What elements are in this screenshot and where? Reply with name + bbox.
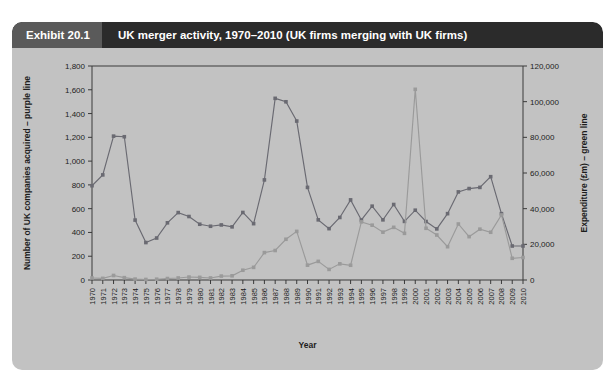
series-marker xyxy=(500,213,504,217)
series-marker xyxy=(155,277,159,281)
series-marker xyxy=(187,215,191,219)
series-marker xyxy=(392,203,396,207)
series-marker xyxy=(209,224,213,228)
x-axis-tick-label: 1999 xyxy=(400,288,409,305)
y-axis-tick-label: 600 xyxy=(72,205,86,214)
x-axis-tick-label: 2007 xyxy=(487,288,496,305)
x-axis-tick-label: 2002 xyxy=(433,288,442,305)
series-marker xyxy=(155,236,159,240)
series-marker xyxy=(370,204,374,208)
x-axis-tick-label: 2006 xyxy=(476,288,485,305)
series-marker xyxy=(241,268,245,272)
x-axis-tick-label: 2001 xyxy=(422,288,431,305)
y2-axis-tick-label: 100,000 xyxy=(530,98,559,107)
series-marker xyxy=(144,241,148,245)
y-axis-tick-label: 1,600 xyxy=(65,86,86,95)
series-marker xyxy=(241,211,245,215)
series-marker xyxy=(263,178,267,182)
series-marker xyxy=(435,233,439,237)
x-axis-tick-label: 1985 xyxy=(250,288,259,305)
series-marker xyxy=(489,230,493,234)
series-marker xyxy=(392,226,396,230)
exhibit-header: Exhibit 20.1 UK merger activity, 1970–20… xyxy=(12,22,603,48)
y-axis-tick-label: 400 xyxy=(72,228,86,237)
series-marker xyxy=(220,223,224,227)
x-axis-tick-label: 1974 xyxy=(131,288,140,305)
x-axis-tick-label: 1991 xyxy=(314,288,323,305)
series-marker xyxy=(295,119,299,123)
x-axis-tick-label: 2003 xyxy=(444,288,453,305)
series-marker xyxy=(263,251,267,255)
y2-axis-tick-label: 0 xyxy=(530,276,535,285)
y-axis-tick-label: 1,800 xyxy=(65,62,86,71)
x-axis-tick-label: 1986 xyxy=(260,288,269,305)
series-marker xyxy=(209,276,213,280)
series-marker xyxy=(510,244,514,248)
chart-axes xyxy=(88,66,527,284)
x-axis-tick-label: 1997 xyxy=(379,288,388,305)
x-axis-tick-label: 1977 xyxy=(163,288,172,305)
series-marker xyxy=(316,218,320,222)
series-marker xyxy=(123,135,127,139)
x-axis-tick-label: 1980 xyxy=(196,288,205,305)
x-axis-tick-label: 1995 xyxy=(357,288,366,305)
exhibit-number-badge: Exhibit 20.1 xyxy=(12,22,102,48)
series-marker xyxy=(273,97,277,101)
x-axis-tick-label: 2008 xyxy=(497,288,506,305)
x-axis-tick-label: 1994 xyxy=(347,288,356,305)
x-axis-title: Year xyxy=(299,340,318,350)
x-axis-tick-label: 2009 xyxy=(508,288,517,305)
y2-axis-title: Expenditure (£m) – green line xyxy=(579,113,589,232)
series-marker xyxy=(381,230,385,234)
x-axis-tick-label: 1988 xyxy=(282,288,291,305)
series-marker xyxy=(133,277,137,281)
series-marker xyxy=(295,230,299,234)
x-axis-tick-label: 1971 xyxy=(99,288,108,305)
x-axis-tick-label: 1975 xyxy=(142,288,151,305)
series-marker xyxy=(521,256,525,260)
x-axis-tick-label: 1989 xyxy=(293,288,302,305)
series-marker xyxy=(435,227,439,231)
x-axis-tick-label: 1978 xyxy=(174,288,183,305)
series-marker xyxy=(166,221,170,225)
x-axis-tick-label: 1979 xyxy=(185,288,194,305)
series-marker xyxy=(198,222,202,226)
series-marker xyxy=(112,134,116,138)
x-axis-tick-label: 2005 xyxy=(465,288,474,305)
series-marker xyxy=(101,173,105,177)
y-axis-tick-label: 1,200 xyxy=(65,133,86,142)
series-marker xyxy=(467,187,471,191)
series-marker xyxy=(478,186,482,190)
exhibit-card: Exhibit 20.1 UK merger activity, 1970–20… xyxy=(12,22,603,370)
series-marker xyxy=(90,276,94,280)
x-axis-tick-label: 1998 xyxy=(390,288,399,305)
series-marker xyxy=(306,186,310,190)
series-marker xyxy=(424,226,428,230)
series-marker xyxy=(273,249,277,253)
series-marker xyxy=(133,218,137,222)
series-marker xyxy=(360,220,364,224)
series-marker xyxy=(316,260,320,264)
merger-activity-line-chart: 02004006008001,0001,2001,4001,6001,80002… xyxy=(12,48,603,370)
series-marker xyxy=(144,278,148,282)
x-axis-tick-label: 2010 xyxy=(519,288,528,305)
series-marker xyxy=(370,223,374,227)
x-axis-tick-label: 2004 xyxy=(454,288,463,305)
series-marker xyxy=(467,235,471,239)
y2-axis-tick-label: 40,000 xyxy=(530,205,555,214)
x-axis-tick-label: 1973 xyxy=(120,288,129,305)
chart-series xyxy=(90,88,525,282)
series-marker xyxy=(457,222,461,226)
series-marker xyxy=(446,212,450,216)
x-axis-tick-label: 1992 xyxy=(325,288,334,305)
chart-labels: 02004006008001,0001,2001,4001,6001,80002… xyxy=(22,62,589,350)
y-axis-tick-label: 1,400 xyxy=(65,110,86,119)
series-marker xyxy=(284,100,288,104)
series-marker xyxy=(90,184,94,188)
y-axis-tick-label: 200 xyxy=(72,252,86,261)
series-marker xyxy=(187,275,191,279)
series-marker xyxy=(230,225,234,229)
y-axis-tick-label: 800 xyxy=(72,181,86,190)
series-marker xyxy=(521,244,525,248)
series-marker xyxy=(478,227,482,231)
